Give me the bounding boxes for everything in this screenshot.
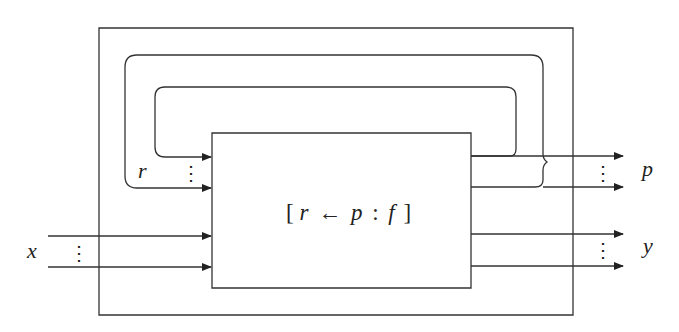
formula-p: p	[349, 200, 363, 225]
output-p-label: p	[640, 156, 653, 181]
formula-f: f	[388, 200, 398, 225]
formula-r: r	[299, 200, 309, 225]
formula-colon: :	[372, 200, 378, 225]
input-x-label: x	[26, 238, 37, 263]
input-r-ellipsis: ⋮	[181, 162, 201, 184]
bracket-open: [	[286, 200, 294, 225]
function-label: [ r ← p : f ]	[286, 200, 411, 225]
input-r-label: r	[138, 158, 147, 183]
formula-arrow: ←	[318, 200, 341, 225]
feedback-diagram: r ⋮ x ⋮ ⋮ p ⋮ y [ r ← p : f ]	[0, 0, 679, 332]
output-y-ellipsis: ⋮	[593, 239, 613, 261]
output-p-ellipsis: ⋮	[593, 162, 613, 184]
input-x-ellipsis: ⋮	[69, 242, 89, 264]
outer-box	[99, 28, 573, 315]
output-y-label: y	[641, 233, 653, 258]
feedback-loop-inner	[155, 87, 516, 157]
bracket-close: ]	[403, 200, 411, 225]
